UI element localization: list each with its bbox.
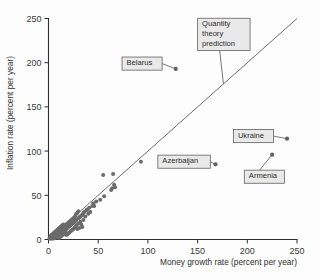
y-tick-label: 250 xyxy=(26,14,41,24)
x-tick-label: 0 xyxy=(46,246,51,256)
chart-canvas: BelarusQuantitytheorypredictionUkraineAr… xyxy=(0,0,320,280)
inflation-vs-money-growth-chart: BelarusQuantitytheorypredictionUkraineAr… xyxy=(0,0,320,280)
callout-leader-line xyxy=(220,51,224,84)
callout-leader-line xyxy=(260,155,273,171)
callout-leader-line xyxy=(162,64,176,69)
data-point xyxy=(81,218,85,222)
callout-leader-line xyxy=(273,136,287,139)
x-tick-label: 200 xyxy=(240,246,255,256)
x-tick-label: 50 xyxy=(93,246,103,256)
y-tick-label: 150 xyxy=(26,102,41,112)
data-point xyxy=(83,215,87,219)
y-tick-label: 0 xyxy=(36,235,41,245)
y-axis-title: Inflation rate (percent per year) xyxy=(5,56,15,170)
y-axis-ticks xyxy=(45,19,49,240)
callout-label: Quantity xyxy=(202,19,230,28)
data-point xyxy=(54,234,58,238)
reference-line-45deg xyxy=(49,19,298,240)
data-point xyxy=(88,210,92,214)
data-point xyxy=(54,229,58,233)
scatter-points-group xyxy=(47,67,289,241)
callout-label: Azerbaijan xyxy=(162,156,198,165)
x-tick-label: 100 xyxy=(140,246,155,256)
data-point xyxy=(101,173,105,177)
data-point xyxy=(109,188,113,192)
data-point xyxy=(98,198,102,202)
x-tick-label: 250 xyxy=(289,246,304,256)
y-tick-label: 50 xyxy=(31,191,41,201)
callout-label: Ukraine xyxy=(238,131,264,140)
x-axis-ticks xyxy=(49,240,298,244)
callout-label: prediction xyxy=(202,39,235,48)
data-point xyxy=(139,160,143,164)
data-point xyxy=(102,194,106,198)
callout-label: Armenia xyxy=(249,171,278,180)
x-axis-tick-labels: 050100150200250 xyxy=(46,246,305,256)
data-point xyxy=(111,172,115,176)
data-point xyxy=(48,234,52,238)
callout-label: theory xyxy=(202,29,223,38)
x-tick-label: 150 xyxy=(190,246,205,256)
x-axis-title: Money growth rate (percent per year) xyxy=(160,257,297,267)
y-axis-tick-labels: 050100150200250 xyxy=(26,14,41,245)
y-tick-label: 100 xyxy=(26,147,41,157)
quantity-theory-prediction-line xyxy=(49,19,298,240)
data-point xyxy=(92,204,96,208)
y-tick-label: 200 xyxy=(26,58,41,68)
callout-label: Belarus xyxy=(127,58,153,67)
